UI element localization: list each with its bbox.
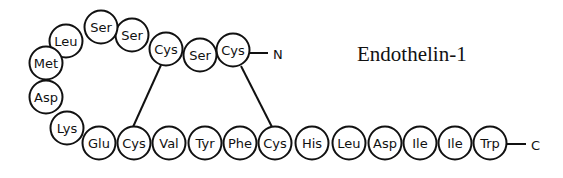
residue-9-lys: Lys	[51, 112, 84, 145]
residue-1-cys: Cys	[217, 34, 250, 67]
c-terminus-label: C	[531, 138, 540, 153]
residue-18-asp: Asp	[369, 127, 402, 160]
residue-label: Ser	[121, 28, 143, 43]
residue-label: Ser	[189, 48, 211, 63]
residue-label: Lys	[57, 121, 78, 136]
residue-5-ser: Ser	[85, 11, 118, 44]
residue-11-cys: Cys	[118, 127, 151, 160]
residue-21-trp: Trp	[474, 127, 507, 160]
residue-17-leu: Leu	[333, 127, 366, 160]
residue-13-tyr: Tyr	[189, 127, 222, 160]
residue-label: Leu	[337, 136, 360, 151]
residue-label: Met	[34, 56, 58, 71]
residue-label: Ile	[447, 136, 462, 151]
residue-8-asp: Asp	[30, 81, 63, 114]
residue-label: Glu	[88, 136, 110, 151]
residue-4-ser: Ser	[116, 19, 149, 52]
residue-10-glu: Glu	[83, 127, 116, 160]
disulfide-bond-cys1-cys15	[241, 66, 272, 127]
residue-2-ser: Ser	[184, 39, 217, 72]
residue-20-ile: Ile	[439, 127, 472, 160]
n-terminus-label: N	[273, 47, 283, 62]
residue-label: Ser	[90, 20, 112, 35]
residue-3-cys: Cys	[150, 33, 183, 66]
residue-label: Cys	[221, 43, 245, 58]
residue-label: His	[302, 136, 322, 151]
residue-label: Val	[159, 136, 178, 151]
residue-19-ile: Ile	[404, 127, 437, 160]
residue-chain: CysSerCysSerSerLeuMetAspLysGluCysValTyrP…	[30, 11, 507, 160]
residue-15-cys: Cys	[259, 127, 292, 160]
residue-label: Phe	[228, 136, 252, 151]
residue-label: Cys	[263, 136, 287, 151]
endothelin-1-structure-diagram: N C Endothelin-1 CysSerCysSerSerLeuMetAs…	[0, 0, 563, 178]
residue-label: Asp	[34, 90, 58, 105]
residue-12-val: Val	[153, 127, 186, 160]
residue-label: Tyr	[195, 136, 216, 151]
residue-7-met: Met	[30, 47, 63, 80]
residue-label: Ile	[412, 136, 427, 151]
residue-label: Asp	[373, 136, 397, 151]
residue-label: Cys	[122, 136, 146, 151]
residue-label: Leu	[54, 34, 77, 49]
diagram-title: Endothelin-1	[357, 42, 467, 66]
residue-label: Trp	[479, 136, 500, 151]
disulfide-bond-cys3-cys11	[133, 65, 161, 127]
residue-16-his: His	[296, 127, 329, 160]
residue-label: Cys	[154, 42, 178, 57]
residue-14-phe: Phe	[224, 127, 257, 160]
